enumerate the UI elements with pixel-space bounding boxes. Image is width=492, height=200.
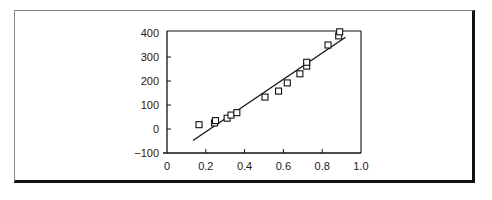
x-tick-label: 0 [164, 160, 170, 172]
scatter-chart: 00.20.40.60.81.0 −1000100200300400 [0, 0, 492, 200]
y-axis-ticks: −1000100200300400 [134, 27, 171, 159]
y-tick-label: −100 [134, 147, 159, 159]
data-point-square [304, 59, 310, 65]
data-point-square [297, 71, 303, 77]
y-tick-label: 400 [141, 27, 159, 39]
axes [163, 31, 361, 153]
data-point-square [262, 94, 268, 100]
data-point-square [325, 42, 331, 48]
data-point-square [276, 88, 282, 94]
x-tick-label: 0.4 [237, 160, 252, 172]
data-point-square [284, 80, 290, 86]
data-point-square [213, 118, 219, 124]
data-point-square [228, 112, 234, 118]
y-tick-label: 300 [141, 51, 159, 63]
y-tick-label: 0 [153, 123, 159, 135]
y-tick-label: 100 [141, 99, 159, 111]
y-tick-label: 200 [141, 75, 159, 87]
data-point-square [196, 122, 202, 128]
x-tick-label: 0.8 [315, 160, 330, 172]
data-point-square [337, 29, 343, 35]
x-tick-label: 1.0 [353, 160, 368, 172]
x-tick-label: 0.2 [198, 160, 213, 172]
data-markers [196, 29, 343, 128]
data-point-square [234, 110, 240, 116]
x-tick-label: 0.6 [276, 160, 291, 172]
